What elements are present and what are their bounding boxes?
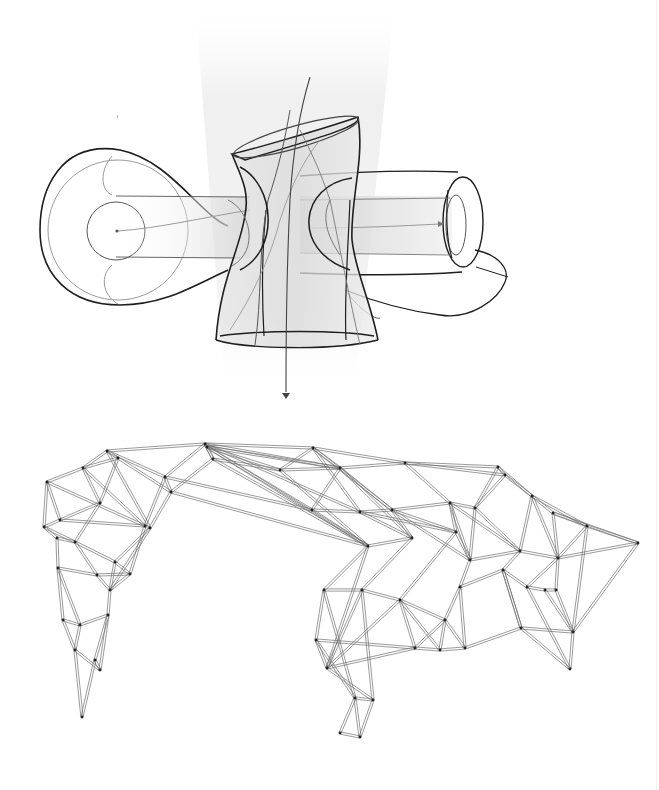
strut bbox=[360, 509, 392, 511]
node bbox=[569, 668, 572, 671]
strut bbox=[340, 462, 405, 467]
strut bbox=[476, 476, 506, 509]
strut bbox=[74, 502, 99, 541]
node bbox=[367, 545, 370, 548]
node bbox=[411, 537, 414, 540]
node bbox=[414, 647, 417, 650]
strut bbox=[207, 448, 340, 469]
strut bbox=[323, 590, 354, 698]
node bbox=[444, 619, 447, 622]
node bbox=[99, 669, 102, 672]
strut bbox=[166, 445, 206, 478]
strut bbox=[326, 546, 367, 668]
strut bbox=[75, 543, 115, 563]
strut bbox=[81, 660, 94, 717]
strut bbox=[502, 571, 526, 588]
strut bbox=[84, 452, 108, 469]
strut bbox=[526, 588, 569, 670]
strut bbox=[107, 590, 109, 615]
strut bbox=[444, 587, 459, 620]
strut bbox=[146, 477, 166, 526]
node bbox=[459, 586, 462, 589]
strut bbox=[76, 625, 81, 650]
node bbox=[114, 561, 117, 564]
strut bbox=[359, 700, 372, 737]
strut bbox=[354, 698, 359, 737]
strut bbox=[339, 469, 411, 539]
strut bbox=[465, 627, 521, 647]
strut bbox=[99, 615, 107, 670]
strut bbox=[205, 443, 313, 447]
strut bbox=[451, 502, 521, 550]
strut bbox=[96, 615, 109, 660]
strut bbox=[117, 459, 170, 493]
node bbox=[520, 627, 523, 630]
strut bbox=[97, 575, 130, 576]
strut bbox=[83, 660, 96, 717]
strut bbox=[312, 449, 391, 511]
strut bbox=[75, 541, 115, 561]
strut bbox=[401, 600, 416, 648]
strut bbox=[574, 544, 639, 633]
strut bbox=[111, 529, 151, 591]
strut bbox=[149, 491, 170, 527]
strut bbox=[47, 469, 83, 483]
node bbox=[474, 507, 477, 510]
strut bbox=[520, 629, 569, 670]
strut bbox=[170, 458, 212, 491]
strut bbox=[47, 481, 145, 525]
node bbox=[572, 631, 575, 634]
strut bbox=[206, 448, 367, 547]
node bbox=[519, 550, 522, 553]
strut bbox=[553, 512, 638, 542]
node bbox=[94, 659, 97, 662]
node bbox=[455, 531, 458, 534]
strut bbox=[44, 526, 75, 541]
node bbox=[315, 639, 318, 642]
node bbox=[82, 467, 85, 470]
strut bbox=[557, 590, 574, 632]
strut bbox=[314, 447, 361, 511]
node bbox=[312, 447, 315, 450]
strut bbox=[340, 734, 360, 738]
strut bbox=[415, 649, 440, 651]
node bbox=[544, 589, 547, 592]
strut bbox=[553, 514, 638, 544]
strut bbox=[131, 526, 146, 574]
left-tube bbox=[116, 196, 250, 258]
strut bbox=[401, 599, 441, 649]
strut bbox=[393, 509, 471, 559]
strut bbox=[446, 587, 461, 620]
strut bbox=[555, 590, 572, 632]
strut bbox=[129, 526, 144, 574]
strut bbox=[317, 590, 325, 640]
strut bbox=[476, 507, 521, 550]
strut bbox=[521, 496, 533, 551]
node bbox=[464, 647, 467, 650]
strut bbox=[406, 462, 451, 502]
strut bbox=[59, 568, 64, 620]
node bbox=[439, 649, 442, 652]
strut bbox=[340, 732, 360, 736]
node bbox=[149, 527, 152, 530]
strut bbox=[80, 614, 108, 624]
strut bbox=[400, 601, 445, 621]
strut bbox=[60, 504, 100, 521]
strut bbox=[502, 550, 519, 569]
node bbox=[359, 736, 362, 739]
strut bbox=[555, 558, 557, 590]
strut bbox=[531, 496, 557, 558]
node bbox=[526, 586, 529, 589]
node bbox=[359, 511, 362, 514]
node bbox=[212, 458, 215, 461]
strut bbox=[457, 532, 471, 560]
node bbox=[339, 732, 342, 735]
node bbox=[504, 474, 507, 477]
strut bbox=[314, 447, 393, 509]
strut bbox=[497, 468, 531, 497]
node bbox=[43, 526, 46, 529]
strut bbox=[101, 615, 109, 670]
strut bbox=[315, 590, 323, 640]
strut bbox=[328, 667, 374, 699]
strut bbox=[279, 471, 367, 547]
